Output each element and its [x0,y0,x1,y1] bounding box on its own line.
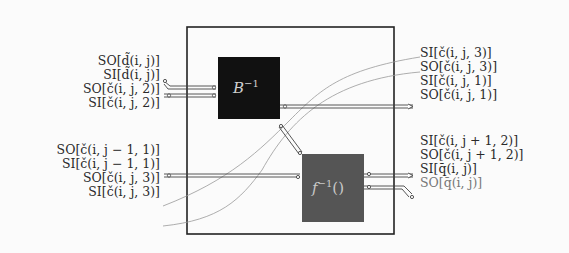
wire-q-bar [364,185,414,198]
curve-so-c3 [163,57,420,206]
left-label-so-c3: SO[č(i, j, 3)] [83,171,160,184]
right-label-si-c3: SI[č(i, j, 3)] [420,46,492,59]
right-label-si-c1: SI[č(i, j, 1)] [420,74,492,87]
wire-c-2 [164,94,216,97]
wire-c-jplus1 [364,172,413,178]
left-label-so-c2: SO[č(i, j, 2)] [83,82,160,95]
left-label-so-c-jminus1: SO[č(i, j − 1, 1)] [57,143,160,156]
left-label-so-d: SO[d̃(i, j)] [98,54,160,67]
left-label-si-c2: SI[č(i, j, 2)] [88,96,160,109]
curve-si-c3 [163,72,420,226]
left-label-si-c-jminus1: SI[č(i, j − 1, 1)] [62,157,160,170]
block-b-inverse-label: B−1 [233,78,259,97]
block-b-symbol: B [233,79,244,97]
right-label-si-q: SI[q̄(i, j)] [420,162,477,175]
block-f-superscript: −1 [318,178,333,189]
right-label-so-c1: SO[č(i, j, 1)] [420,88,497,101]
block-f-suffix: () [332,179,344,197]
left-label-si-d: SI[d̃(i, j)] [103,68,160,81]
right-label-so-c3: SO[č(i, j, 3)] [420,60,497,73]
block-f-inverse-label: f−1() [312,178,344,197]
right-label-so-c-jplus1: SO[č(i, j + 1, 2)] [420,148,523,161]
wire-d-tilde [163,79,216,89]
left-label-si-c3: SI[č(i, j, 3)] [88,185,160,198]
wire-c-1 [280,104,413,109]
block-b-superscript: −1 [244,78,259,89]
right-label-so-q: SO[q̄(i, j)] [420,176,482,189]
block-diagram [0,0,569,253]
right-label-si-c-jplus1: SI[č(i, j + 1, 2)] [420,134,518,147]
wire-c-jminus1 [164,174,300,179]
